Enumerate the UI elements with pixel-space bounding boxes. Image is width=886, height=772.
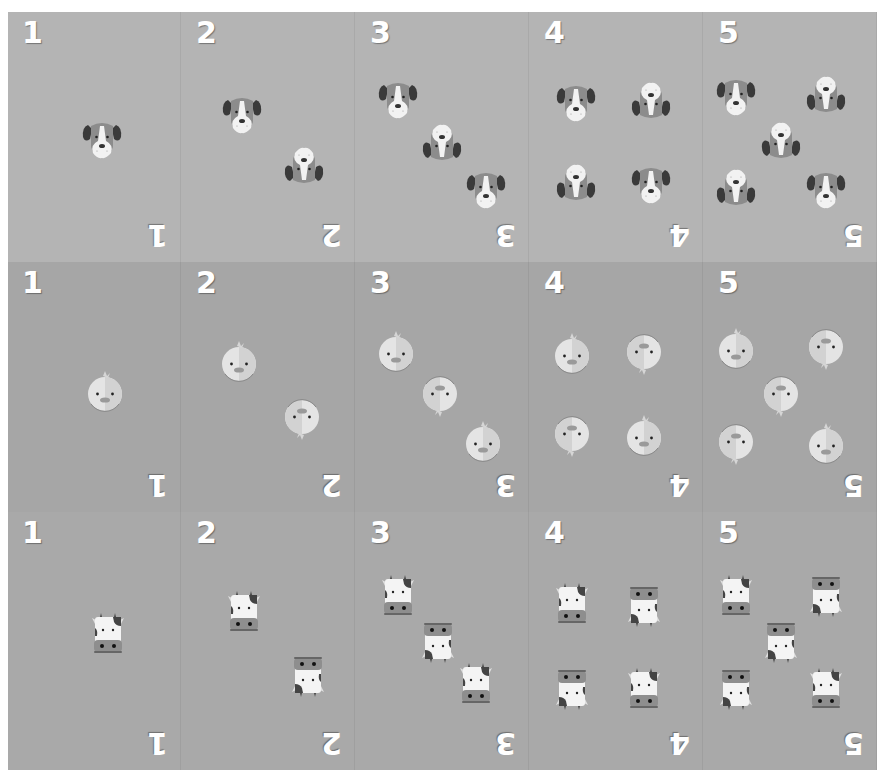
card-number-label-inverted: 5 [843, 728, 864, 758]
card-number-label-inverted: 1 [147, 728, 168, 758]
chick-icon [217, 340, 261, 384]
card-number-label: 3 [370, 518, 391, 548]
card-number-label-inverted: 4 [669, 728, 690, 758]
chick-card-2: 22 [182, 262, 355, 512]
card-number-label-inverted: 5 [843, 220, 864, 250]
card-number-label: 4 [544, 18, 565, 48]
chick-icon [804, 422, 848, 466]
card-number-label-inverted: 4 [669, 470, 690, 500]
cow-card-1: 11 [8, 512, 181, 770]
card-number-label-inverted: 3 [495, 220, 516, 250]
dog-icon [220, 92, 264, 136]
card-number-label-inverted: 1 [147, 220, 168, 250]
chick-icon [714, 327, 758, 371]
dog-icon [464, 167, 508, 211]
chick-icon [714, 422, 758, 466]
cow-icon [416, 620, 460, 664]
cow-icon [550, 667, 594, 711]
chick-icon [461, 420, 505, 464]
chick-icon [418, 374, 462, 418]
card-number-label-inverted: 5 [843, 470, 864, 500]
dog-icon [282, 145, 326, 189]
chick-icon [804, 327, 848, 371]
chick-icon [374, 330, 418, 374]
chick-card-strip: 11 22 33 [8, 262, 877, 512]
cow-icon [286, 654, 330, 698]
card-number-label: 3 [370, 18, 391, 48]
cow-card-strip: 11 22 33 [8, 512, 877, 770]
dog-card-strip: 11 22 33 [8, 12, 877, 262]
card-number-label: 4 [544, 268, 565, 298]
dog-icon [554, 80, 598, 124]
chick-icon [83, 370, 127, 414]
dog-icon [804, 74, 848, 118]
dog-icon [80, 117, 124, 161]
cow-icon [454, 662, 498, 706]
cow-icon [622, 667, 666, 711]
card-number-label-inverted: 4 [669, 220, 690, 250]
card-number-label: 5 [718, 18, 739, 48]
chick-icon [550, 332, 594, 376]
card-number-label: 2 [196, 518, 217, 548]
cow-icon [622, 584, 666, 628]
dog-icon [629, 162, 673, 206]
chick-card-1: 11 [8, 262, 181, 512]
dog-card-2: 22 [182, 12, 355, 262]
card-number-label-inverted: 1 [147, 470, 168, 500]
dog-icon [714, 74, 758, 118]
card-number-label: 5 [718, 518, 739, 548]
cow-icon [759, 620, 803, 664]
cow-card-3: 33 [356, 512, 529, 770]
card-number-label-inverted: 2 [321, 470, 342, 500]
chick-icon [550, 414, 594, 458]
card-number-label: 5 [718, 268, 739, 298]
cow-icon [804, 574, 848, 618]
card-number-label-inverted: 2 [321, 220, 342, 250]
dog-card-4: 44 [530, 12, 703, 262]
cow-icon [714, 667, 758, 711]
cow-icon [222, 590, 266, 634]
dog-icon [629, 80, 673, 124]
cow-card-4: 44 [530, 512, 703, 770]
chick-icon [759, 374, 803, 418]
cow-icon [376, 574, 420, 618]
chick-icon [280, 397, 324, 441]
dog-icon [804, 167, 848, 211]
counting-cards-sheet: 11 22 33 [8, 12, 877, 770]
cow-icon [86, 612, 130, 656]
card-number-label: 1 [22, 18, 43, 48]
chick-icon [622, 332, 666, 376]
dog-icon [759, 120, 803, 164]
cow-icon [804, 667, 848, 711]
cow-card-2: 22 [182, 512, 355, 770]
cow-icon [550, 582, 594, 626]
dog-icon [714, 167, 758, 211]
chick-icon [622, 414, 666, 458]
card-number-label-inverted: 2 [321, 728, 342, 758]
card-number-label: 2 [196, 18, 217, 48]
card-number-label: 3 [370, 268, 391, 298]
card-number-label: 1 [22, 518, 43, 548]
cow-card-5: 55 [704, 512, 877, 770]
dog-icon [420, 122, 464, 166]
card-number-label: 1 [22, 268, 43, 298]
dog-card-1: 11 [8, 12, 181, 262]
dog-icon [376, 77, 420, 121]
chick-card-3: 33 [356, 262, 529, 512]
dog-icon [554, 162, 598, 206]
cow-icon [714, 574, 758, 618]
chick-card-5: 55 [704, 262, 877, 512]
dog-card-5: 55 [704, 12, 877, 262]
dog-card-3: 33 [356, 12, 529, 262]
card-number-label-inverted: 3 [495, 728, 516, 758]
card-number-label: 2 [196, 268, 217, 298]
card-number-label-inverted: 3 [495, 470, 516, 500]
card-number-label: 4 [544, 518, 565, 548]
chick-card-4: 44 [530, 262, 703, 512]
